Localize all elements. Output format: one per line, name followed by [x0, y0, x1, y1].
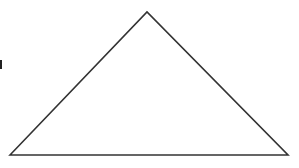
- triangle-shape: [10, 12, 288, 155]
- triangle-diagram: [0, 0, 299, 168]
